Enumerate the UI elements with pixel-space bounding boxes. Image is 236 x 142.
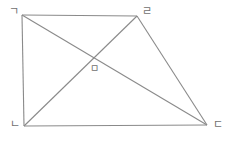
edge-top — [22, 15, 137, 16]
intersection-label-center: ㅁ — [90, 64, 99, 74]
vertex-label-top-left: ㄱ — [9, 6, 19, 17]
vertex-label-bottom-left: ㄴ — [10, 119, 20, 130]
edge-left — [22, 15, 24, 126]
edge-right — [137, 16, 207, 125]
diagonal-bottom-left-to-top-right — [24, 16, 137, 126]
edge-bottom — [24, 125, 207, 126]
vertex-label-bottom-right: ㄷ — [213, 119, 223, 130]
geometry-figure — [0, 0, 236, 142]
vertex-label-top-right: ㄹ — [142, 6, 152, 17]
diagonal-top-left-to-bottom-right — [22, 15, 207, 125]
